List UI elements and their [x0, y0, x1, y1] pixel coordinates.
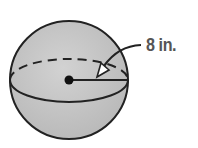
center-point: [65, 76, 74, 85]
radius-label: 8 in.: [146, 34, 176, 56]
sphere-diagram: [0, 0, 198, 148]
